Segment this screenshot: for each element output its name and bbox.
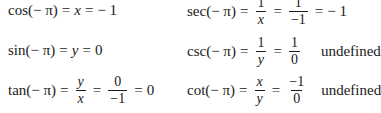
- numerator: 1: [255, 0, 266, 11]
- lhs: tan(− π): [8, 82, 56, 99]
- equals-sign: =: [315, 3, 323, 20]
- fraction: −1 0: [287, 75, 306, 106]
- numerator: −1: [287, 75, 306, 90]
- equation-cos: cos(− π) = x = − 1: [8, 2, 117, 19]
- denominator: y: [256, 51, 266, 67]
- equation-sec: sec(− π) = 1 x = 1 −1 = − 1: [187, 0, 347, 27]
- fraction: 1 −1: [289, 0, 308, 27]
- numerator: 1: [255, 36, 266, 51]
- equals-sign: =: [60, 82, 68, 99]
- undefined-label: undefined: [321, 43, 381, 60]
- equals-sign: =: [273, 43, 281, 60]
- fraction: 1 y: [255, 36, 266, 67]
- value: y: [72, 42, 79, 59]
- lhs: cot(− π): [187, 82, 235, 99]
- equation-sin: sin(− π) = y = 0: [8, 42, 102, 59]
- fraction: 0 −1: [108, 75, 127, 106]
- denominator: x: [76, 90, 86, 106]
- lhs: sec(− π): [187, 3, 236, 20]
- result: − 1: [327, 3, 347, 20]
- denominator: −1: [108, 90, 127, 106]
- result: 0: [95, 42, 103, 59]
- equals-sign: =: [272, 82, 280, 99]
- denominator: y: [255, 90, 265, 106]
- numerator: 1: [289, 36, 300, 51]
- equals-sign: =: [85, 2, 93, 19]
- equals-sign: =: [134, 82, 142, 99]
- value: x: [74, 2, 81, 19]
- undefined-label: undefined: [321, 82, 381, 99]
- numerator: x: [255, 75, 265, 90]
- equation-tan: tan(− π) = y x = 0 −1 = 0: [8, 75, 154, 106]
- equals-sign: =: [93, 82, 101, 99]
- fraction: y x: [76, 75, 86, 106]
- fraction: 1 x: [255, 0, 266, 27]
- numerator: y: [76, 75, 86, 90]
- denominator: x: [256, 11, 266, 27]
- lhs: sin(− π): [8, 42, 55, 59]
- denominator: 0: [291, 90, 302, 106]
- result: 0: [147, 82, 155, 99]
- equals-sign: =: [240, 43, 248, 60]
- numerator: 1: [293, 0, 304, 11]
- numerator: 0: [112, 75, 123, 90]
- equation-csc: csc(− π) = 1 y = 1 0 undefined: [187, 36, 381, 67]
- fraction: 1 0: [289, 36, 300, 67]
- lhs: csc(− π): [187, 43, 236, 60]
- denominator: 0: [289, 51, 300, 67]
- equals-sign: =: [239, 82, 247, 99]
- equals-sign: =: [82, 42, 90, 59]
- equals-sign: =: [273, 3, 281, 20]
- fraction: x y: [255, 75, 265, 106]
- equals-sign: =: [62, 2, 70, 19]
- equals-sign: =: [59, 42, 67, 59]
- lhs: cos(− π): [8, 2, 58, 19]
- equals-sign: =: [240, 3, 248, 20]
- denominator: −1: [289, 11, 308, 27]
- result: − 1: [97, 2, 117, 19]
- equation-cot: cot(− π) = x y = −1 0 undefined: [187, 75, 381, 106]
